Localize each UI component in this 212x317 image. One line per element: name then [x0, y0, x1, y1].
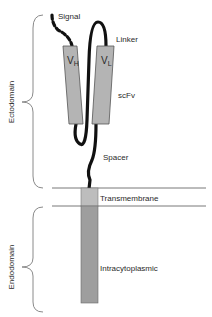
intracytoplasmic-label: Intracytoplasmic: [100, 264, 158, 273]
ectodomain-brace: [22, 15, 43, 188]
transmembrane-box: [81, 188, 98, 206]
endodomain-label: Endodomain: [7, 245, 16, 290]
diagram-svg: VH VL Signal Linker scFv Spacer Transmem…: [0, 0, 212, 317]
car-t-diagram: VH VL Signal Linker scFv Spacer Transmem…: [0, 0, 212, 317]
transmembrane-label: Transmembrane: [100, 194, 159, 203]
linker-label: Linker: [116, 35, 138, 44]
ectodomain-label: Ectodomain: [7, 81, 16, 123]
spacer-chain: [88, 124, 96, 189]
spacer-label: Spacer: [103, 153, 129, 162]
intracytoplasmic-box: [81, 206, 98, 303]
scfv-label: scFv: [118, 91, 135, 100]
endodomain-brace: [22, 207, 43, 312]
signal-label: Signal: [58, 12, 80, 21]
